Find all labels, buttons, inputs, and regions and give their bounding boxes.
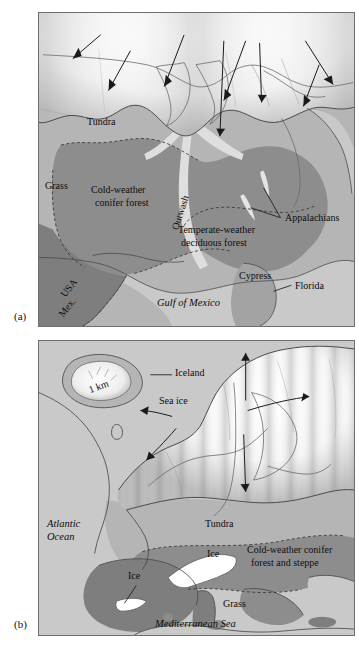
figure-root: Tundra Grass Cold-weather conifer forest… [0,0,359,645]
map-label-tundra: Tundra [87,117,116,127]
map-label-cold-conifer-b-line1: Cold-weather conifer [247,545,332,555]
map-label-cold-conifer-line2: conifer forest [95,198,149,208]
map-label-atlantic-line2: Ocean [47,532,74,543]
island-crete [308,617,336,628]
map-panel-a: Tundra Grass Cold-weather conifer forest… [38,12,355,327]
map-panel-b: 1 km Iceland Sea ice Atlantic Ocean Tund… [38,340,355,636]
map-label-sea-ice: Sea ice [159,396,188,406]
map-label-temperate-line2: deciduous forest [181,238,247,248]
map-label-temperate-line1: Temperate-weather [178,225,255,235]
map-label-florida: Florida [295,281,324,291]
map-label-appalachians: Appalachians [285,213,339,223]
map-label-gulf-of-mexico: Gulf of Mexico [157,298,220,309]
panel-b-tag: (b) [14,618,27,630]
map-label-iceland: Iceland [175,368,204,378]
panel-a-tag: (a) [14,310,26,322]
map-label-ice-pyrenees: Ice [128,571,140,581]
map-label-atlantic-line1: Atlantic [47,519,80,530]
map-label-cypress: Cypress [239,271,271,281]
map-label-mediterranean-sea: Mediterranean Sea [155,619,236,630]
map-label-ice-alps: Ice [207,549,219,559]
map-label-cold-conifer-b-line2: forest and steppe [251,558,319,568]
map-label-cold-conifer-line1: Cold-weather [91,185,145,195]
map-label-grass-b: Grass [223,599,246,609]
map-label-tundra-b: Tundra [205,519,234,529]
map-label-grass: Grass [45,181,68,191]
map-b-graphic [39,341,354,635]
